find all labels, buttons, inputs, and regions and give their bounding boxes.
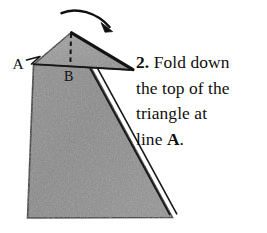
caption-line-4: line A. [136, 127, 267, 153]
caption-line-3: triangle at [136, 101, 267, 127]
triangle-flap-shape [33, 33, 133, 71]
caption-line-2: the top of the [136, 76, 267, 102]
label-fold-line-a: A [13, 55, 25, 72]
curved-arrow-icon [62, 10, 113, 32]
caption-line-4-prefix: line [136, 129, 167, 149]
label-center-line-b: B [64, 69, 73, 84]
caption-line-reference: A [167, 129, 180, 149]
instruction-caption: 2. Fold down the top of the triangle at … [136, 50, 267, 152]
caption-line-1-text: Fold down [154, 52, 230, 72]
caption-line-4-suffix: . [180, 129, 184, 149]
caption-line-1: 2. Fold down [136, 50, 267, 76]
step-number: 2. [136, 52, 149, 72]
